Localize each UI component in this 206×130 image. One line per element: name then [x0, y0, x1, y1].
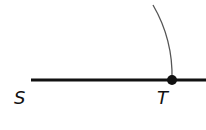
label-t: T [157, 87, 170, 108]
label-s: S [14, 87, 25, 108]
compass-arc [153, 5, 172, 80]
diagram-canvas: S T [0, 0, 206, 130]
point-t [167, 75, 177, 85]
